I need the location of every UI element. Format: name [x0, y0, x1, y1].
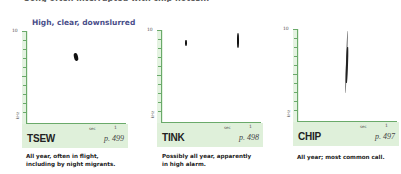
caption: All year, often in flight, including by … — [26, 152, 115, 168]
caption-line-1: Possibly all year, apparently — [162, 152, 251, 160]
y-axis — [161, 30, 162, 122]
call-trace-tsew — [73, 53, 79, 62]
x-label-1: 1 — [249, 124, 252, 129]
page-reference: p. 497 — [375, 132, 395, 141]
page-reference: p. 498 — [239, 133, 259, 142]
caption-line-2: in high alarm. — [162, 160, 251, 168]
y-label-10: 10 — [12, 28, 18, 33]
caption-line-2: including by night migrants. — [26, 160, 115, 168]
caption: All year; most common call. — [297, 153, 385, 161]
call-name: TSEW — [27, 133, 55, 144]
y-unit-khz: kHz — [15, 112, 20, 119]
x-label-1: 1 — [385, 123, 388, 128]
x-label-1: 1 — [114, 125, 117, 130]
caption-line-1: All year; most common call. — [297, 153, 385, 161]
label-band: sec 1 TSEW p. 499 — [22, 124, 128, 148]
y-unit-khz: kHz — [150, 111, 155, 118]
spectrogram-panel-tink: 10 kHz sec 1 TINK p. 498 Possibly all ye… — [157, 30, 263, 170]
spectrogram-panel-tsew: 10 kHz sec 1 TSEW p. 499 All year, often… — [22, 31, 128, 171]
call-trace-tink-1 — [185, 40, 187, 46]
spectrogram-panel-chip: 10 kHz sec 1 CHIP p. 497 All year; most … — [293, 29, 399, 169]
spectrogram-graph: 10 kHz — [293, 29, 399, 122]
label-band: sec 1 CHIP p. 497 — [293, 122, 399, 146]
x-unit-sec: sec — [360, 124, 367, 129]
page-reference: p. 499 — [104, 134, 124, 143]
y-axis-shade — [293, 29, 299, 122]
truncated-heading-line: Song often interrupted with chip notes..… — [24, 0, 209, 2]
y-label-10: 10 — [283, 26, 289, 31]
call-trace-chip-core — [345, 47, 348, 83]
call-name: TINK — [162, 132, 185, 143]
label-band: sec 1 TINK p. 498 — [157, 123, 263, 147]
y-axis-shade — [157, 30, 163, 123]
call-name: CHIP — [298, 131, 321, 142]
y-label-10: 10 — [147, 27, 153, 32]
y-axis — [297, 29, 298, 121]
y-unit-khz: kHz — [286, 110, 291, 117]
call-description-subtitle: High, clear, downslurred — [32, 18, 135, 27]
spectrogram-graph: 10 kHz — [157, 30, 263, 123]
call-trace-tink-2 — [237, 33, 239, 48]
x-unit-sec: sec — [89, 126, 96, 131]
x-unit-sec: sec — [224, 125, 231, 130]
caption: Possibly all year, apparently in high al… — [162, 152, 251, 168]
y-axis-shade — [22, 31, 28, 124]
y-axis — [26, 31, 27, 123]
spectrogram-graph: 10 kHz — [22, 31, 128, 124]
caption-line-1: All year, often in flight, — [26, 152, 115, 160]
